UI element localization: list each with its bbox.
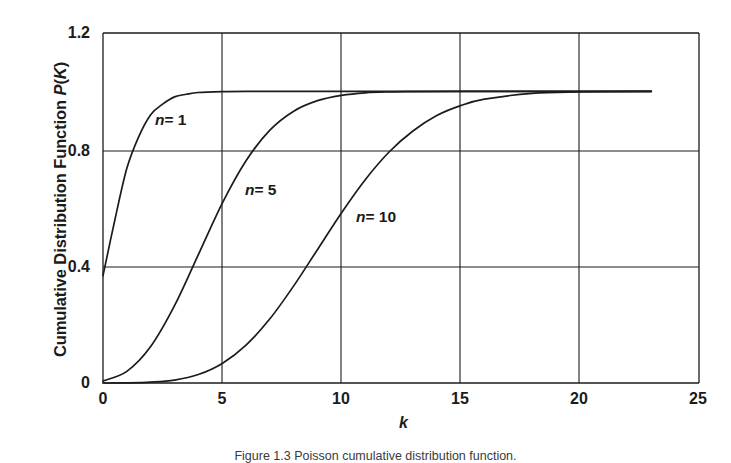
data-curves xyxy=(103,91,651,383)
plot-canvas xyxy=(0,0,731,463)
figure-poisson-cdf: Cumulative Distribution Function P(K) 1.… xyxy=(0,0,731,463)
curve-annotation-n-5-value: = 5 xyxy=(254,181,276,198)
curve-annotation-n-1: n= 1 xyxy=(155,111,186,129)
figure-caption-text: Figure 1.3 Poisson cumulative distributi… xyxy=(234,449,516,463)
x-axis-title-text: k xyxy=(399,414,408,431)
curve-annotation-n-10: n= 10 xyxy=(356,208,396,226)
curve-n-10 xyxy=(103,91,651,383)
curve-n-5 xyxy=(103,91,651,381)
curve-annotation-n-10-value: = 10 xyxy=(365,208,396,225)
curve-annotation-n-1-value: = 1 xyxy=(164,111,186,128)
x-axis-title: k xyxy=(0,414,731,432)
grid-lines xyxy=(103,33,699,383)
figure-caption: Figure 1.3 Poisson cumulative distributi… xyxy=(0,449,731,463)
curve-annotation-n-5: n= 5 xyxy=(245,181,276,199)
